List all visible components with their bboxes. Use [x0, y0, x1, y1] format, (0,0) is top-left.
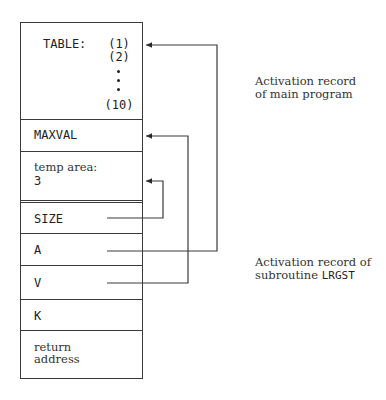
- subroutine-caption: Activation record of subroutine LRGST: [255, 256, 371, 282]
- sub-caption-prefix: subroutine: [255, 268, 322, 282]
- main-program-caption: Activation record of main program: [255, 75, 356, 101]
- arrow-a-to-table: [107, 45, 217, 251]
- sub-caption-line2: subroutine LRGST: [255, 269, 371, 282]
- arrow-size-to-temp: [107, 181, 163, 218]
- subroutine-name: LRGST: [322, 269, 355, 282]
- main-caption-line2: of main program: [255, 88, 356, 101]
- arrow-v-to-maxval: [107, 136, 188, 283]
- pointer-arrows: [0, 0, 386, 400]
